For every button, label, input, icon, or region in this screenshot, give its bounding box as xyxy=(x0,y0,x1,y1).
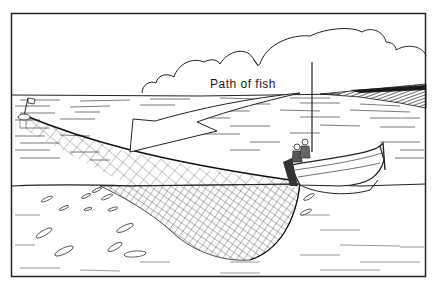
illustration-canvas xyxy=(0,0,438,290)
path-of-fish-label: Path of fish xyxy=(210,77,276,91)
